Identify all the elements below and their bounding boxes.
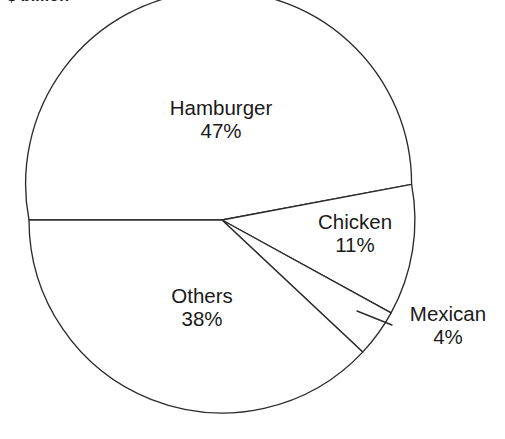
pie-label-mexican-name: Mexican [410, 302, 486, 325]
pie-chart-figure: $ billion Hamburger 47% Chicken 11% Mexi… [0, 0, 505, 439]
pie-label-hamburger: Hamburger 47% [126, 96, 316, 142]
pie-chart-graphic [0, 0, 505, 439]
pie-label-chicken: Chicken 11% [300, 210, 410, 256]
pie-label-chicken-value: 11% [300, 233, 410, 256]
pie-label-mexican-value: 4% [392, 325, 504, 348]
pie-label-mexican: Mexican 4% [392, 302, 504, 348]
pie-label-hamburger-name: Hamburger [170, 96, 273, 119]
pie-label-others-value: 38% [132, 307, 272, 330]
pie-label-others-name: Others [171, 284, 233, 307]
pie-label-chicken-name: Chicken [318, 210, 392, 233]
pie-label-others: Others 38% [132, 284, 272, 330]
pie-label-hamburger-value: 47% [126, 119, 316, 142]
